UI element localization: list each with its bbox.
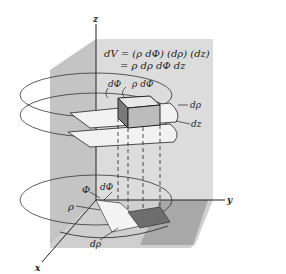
y-axis-label: y (226, 195, 233, 205)
label-drho-base: dρ (90, 239, 102, 249)
label-rho-base: ρ (67, 201, 74, 212)
label-dphi-top: dΦ (108, 79, 121, 89)
volume-element-front (128, 105, 160, 128)
formula-line-2: = ρ dρ dΦ dz (120, 60, 186, 71)
label-rho-dphi: ρ dΦ (131, 79, 153, 89)
label-dz-right: dz (191, 119, 202, 129)
label-dphi-base: dΦ (100, 182, 113, 192)
z-axis-label: z (92, 14, 99, 24)
label-phi-base: Φ (82, 184, 90, 195)
cylindrical-volume-diagram: z y x dV = (ρ dΦ) (dρ) (dz) = ρ dρ dΦ dz (0, 0, 286, 274)
formula-line-1: dV = (ρ dΦ) (dρ) (dz) (104, 48, 210, 59)
x-axis-label: x (34, 263, 41, 273)
label-drho-right: dρ (190, 100, 202, 110)
